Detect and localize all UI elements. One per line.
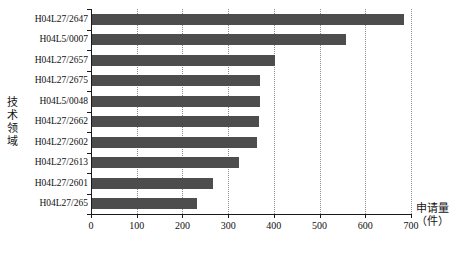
y-axis-tick <box>87 30 91 31</box>
x-axis-tick-label: 400 <box>266 220 281 232</box>
x-axis-line <box>91 214 411 215</box>
x-axis-tick-label: 600 <box>358 220 373 232</box>
y-axis-tick <box>87 91 91 92</box>
gridline <box>411 9 412 214</box>
category-label: H04L5/0048 <box>16 96 88 107</box>
y-axis-tick <box>87 132 91 133</box>
bar <box>92 55 275 66</box>
y-axis-tick <box>87 9 91 10</box>
bar <box>92 137 257 148</box>
bar <box>92 116 259 127</box>
x-axis-tick-label: 0 <box>89 220 94 232</box>
category-label: H04L27/2602 <box>16 137 88 148</box>
x-axis-title-unit: （件） <box>416 215 449 228</box>
category-label-list: H04L27/2647H04L5/0007H04L27/2657H04L27/2… <box>18 9 90 214</box>
x-axis-tick <box>137 214 138 218</box>
x-axis-tick <box>182 214 183 218</box>
bar <box>92 96 260 107</box>
x-axis-tick <box>320 214 321 218</box>
bar <box>92 75 260 86</box>
x-axis-tick-label: 100 <box>129 220 144 232</box>
category-label: H04L27/2675 <box>16 75 88 86</box>
plot-area: 0100200300400500600700 <box>91 9 411 214</box>
category-label: H04L27/2601 <box>16 178 88 189</box>
x-axis-tick-label: 200 <box>175 220 190 232</box>
bar <box>92 34 346 45</box>
bar <box>92 198 197 209</box>
bar <box>92 157 239 168</box>
y-axis-tick <box>87 214 91 215</box>
y-axis-tick <box>87 173 91 174</box>
x-axis-tick <box>411 214 412 218</box>
category-label: H04L27/2657 <box>16 55 88 66</box>
gridline <box>365 9 366 214</box>
category-label: H04L27/2662 <box>16 116 88 127</box>
y-axis-tick <box>87 112 91 113</box>
y-axis-tick <box>87 194 91 195</box>
x-axis-title: 申请量 （件） <box>416 202 449 228</box>
category-label: H04L27/265 <box>16 198 88 209</box>
x-axis-tick <box>274 214 275 218</box>
x-axis-title-main: 申请量 <box>416 202 449 214</box>
y-axis-tick <box>87 50 91 51</box>
x-axis-tick-label: 300 <box>221 220 236 232</box>
category-label: H04L27/2613 <box>16 157 88 168</box>
x-axis-tick <box>228 214 229 218</box>
x-axis-tick <box>365 214 366 218</box>
y-axis-tick <box>87 71 91 72</box>
x-axis-tick-label: 500 <box>312 220 327 232</box>
bar <box>92 178 213 189</box>
category-label: H04L27/2647 <box>16 14 88 25</box>
category-label: H04L5/0007 <box>16 34 88 45</box>
bar <box>92 14 404 25</box>
x-axis-tick <box>91 214 92 218</box>
horizontal-bar-chart: 技术领域 H04L27/2647H04L5/0007H04L27/2657H04… <box>0 0 463 258</box>
y-axis-tick <box>87 153 91 154</box>
